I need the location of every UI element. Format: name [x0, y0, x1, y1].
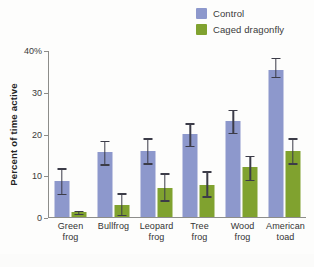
error-bar-cap-bottom: [203, 196, 212, 197]
bar-wrapper: [269, 50, 284, 217]
bar-wrapper: [226, 50, 241, 217]
error-bar-cap-top: [289, 138, 298, 139]
caption-cutoff-strip: [0, 254, 314, 267]
bar-control: [226, 121, 241, 216]
x-axis-label-line2: frog: [221, 232, 264, 243]
x-axis-label-line1: American: [266, 221, 305, 231]
bar-wrapper: [200, 50, 215, 217]
bar-group: [177, 51, 220, 217]
error-bar-cap-top: [160, 173, 169, 174]
error-bar-line: [233, 110, 234, 133]
bar-group: [135, 51, 178, 217]
bar-groups: [49, 51, 306, 217]
y-axis-title: Percent of time active: [6, 51, 20, 218]
y-tick-label-10: 10: [32, 171, 42, 181]
error-bar-line: [147, 138, 148, 163]
error-bar-cap-top: [203, 171, 212, 172]
bar-chart-figure: Control Caged dragonfly Percent of time …: [0, 0, 314, 267]
error-bar-line: [275, 58, 276, 77]
y-tick-40: [44, 51, 48, 52]
y-tick-30: [44, 93, 48, 94]
error-bar-line: [207, 171, 208, 196]
y-tick-label-20: 20: [32, 130, 42, 140]
bar-wrapper: [71, 50, 86, 217]
x-axis-label-line1: Bullfrog: [98, 221, 129, 231]
error-bar-line: [61, 168, 62, 193]
bar-wrapper: [114, 50, 129, 217]
x-axis-label-line2: toad: [264, 232, 307, 243]
legend-swatch-caged-dragonfly: [196, 24, 207, 35]
bar-control: [269, 70, 284, 216]
error-bar-cap-bottom: [186, 146, 195, 147]
error-bar-line: [190, 123, 191, 145]
x-axis-label-line1: Wood: [231, 221, 255, 231]
x-axis-label-line1: Leopard: [140, 221, 174, 231]
error-bar-cap-top: [186, 123, 195, 124]
error-bar-cap-bottom: [57, 194, 66, 195]
x-axis-label-green-frog: Greenfrog: [49, 221, 92, 243]
error-bar-cap-bottom: [229, 133, 238, 134]
x-axis-category-labels: GreenfrogBullfrogLeopardfrogTreefrogWood…: [49, 221, 307, 243]
y-tick-0: [44, 218, 48, 219]
error-bar-cap-bottom: [117, 215, 126, 216]
bar-wrapper: [140, 50, 155, 217]
x-axis-label-line1: Tree: [190, 221, 209, 231]
x-axis-label-wood-frog: Woodfrog: [221, 221, 264, 243]
y-tick-label-30: 30: [32, 88, 42, 98]
error-bar-cap-top: [246, 156, 255, 157]
error-bar-cap-bottom: [246, 180, 255, 181]
legend-swatch-control: [196, 8, 207, 19]
bar-group: [263, 51, 306, 217]
error-bar-cap-bottom: [74, 214, 83, 215]
legend-label-control: Control: [213, 8, 244, 19]
bar-wrapper: [183, 50, 198, 217]
x-axis-line: [48, 217, 306, 219]
error-bar-cap-bottom: [143, 163, 152, 164]
y-tick-10: [44, 176, 48, 177]
error-bar-cap-bottom: [160, 200, 169, 201]
legend-item-control: Control: [196, 8, 284, 19]
error-bar-line: [164, 173, 165, 200]
y-axis-title-text: Percent of time active: [8, 83, 19, 186]
error-bar-line: [121, 193, 122, 215]
bar-wrapper: [157, 50, 172, 217]
bar-wrapper: [243, 50, 258, 217]
bar-group: [92, 51, 135, 217]
x-axis-label-line2: frog: [49, 232, 92, 243]
bar-wrapper: [97, 50, 112, 217]
error-bar-cap-top: [117, 193, 126, 194]
x-axis-label-american-toad: Americantoad: [264, 221, 307, 243]
legend-item-caged-dragonfly: Caged dragonfly: [196, 24, 284, 35]
error-bar-cap-bottom: [100, 164, 109, 165]
error-bar-line: [250, 156, 251, 180]
bar-wrapper: [286, 50, 301, 217]
x-axis-label-tree-frog: Treefrog: [178, 221, 221, 243]
y-tick-20: [44, 135, 48, 136]
bar-wrapper: [54, 50, 69, 217]
error-bar-line: [292, 138, 293, 163]
x-axis-label-line1: Green: [58, 221, 84, 231]
chart-legend: Control Caged dragonfly: [196, 8, 284, 35]
error-bar-cap-top: [100, 141, 109, 142]
bar-group: [220, 51, 263, 217]
y-tick-label-0: 0: [37, 213, 42, 223]
error-bar-cap-top: [74, 211, 83, 212]
error-bar-cap-top: [143, 138, 152, 139]
x-axis-label-line2: frog: [135, 232, 178, 243]
error-bar-cap-top: [229, 110, 238, 111]
x-axis-label-leopard-frog: Leopardfrog: [135, 221, 178, 243]
error-bar-cap-bottom: [289, 163, 298, 164]
x-axis-label-bullfrog: Bullfrog: [92, 221, 135, 243]
y-tick-label-40: 40%: [24, 46, 42, 56]
error-bar-cap-bottom: [272, 77, 281, 78]
error-bar-cap-top: [57, 168, 66, 169]
plot-area: 010203040%: [48, 51, 306, 218]
legend-label-caged-dragonfly: Caged dragonfly: [213, 24, 284, 35]
bar-group: [49, 51, 92, 217]
error-bar-cap-top: [272, 58, 281, 59]
x-axis-label-line2: frog: [178, 232, 221, 243]
error-bar-line: [104, 141, 105, 165]
